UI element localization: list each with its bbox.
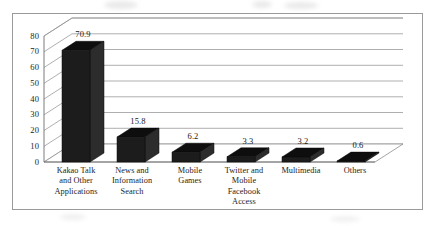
value-label-twitter-facebook: 3.3 [227, 137, 269, 146]
y-tick-30: 30 [19, 110, 39, 119]
category-label-line: Mobile [202, 176, 286, 186]
y-tick-40: 40 [19, 95, 39, 104]
y-tick-80: 80 [19, 32, 39, 41]
y-tick-50: 50 [19, 79, 39, 88]
category-label-line: Others [320, 166, 390, 176]
category-label-line: Access [202, 197, 286, 207]
y-tick-60: 60 [19, 63, 39, 72]
value-label-mobile-games: 6.2 [172, 132, 214, 141]
value-label-kakao-talk: 70.9 [62, 30, 104, 39]
y-tick-70: 70 [19, 47, 39, 56]
y-tick-10: 10 [19, 142, 39, 151]
value-label-others: 0.6 [337, 141, 379, 150]
category-label-line: Facebook [202, 187, 286, 197]
value-label-news-search: 15.8 [117, 117, 159, 126]
y-tick-20: 20 [19, 126, 39, 135]
bar-news-and-information-search [117, 128, 159, 162]
category-label-line: Search [90, 187, 174, 197]
bar-kakao-talk-and-other-applications [62, 41, 104, 162]
chart-figure: 80 70 60 50 40 30 20 10 0 70.9 15.8 6.2 … [0, 0, 438, 226]
category-label-others: Others [320, 166, 390, 176]
value-label-multimedia: 3.2 [282, 137, 324, 146]
